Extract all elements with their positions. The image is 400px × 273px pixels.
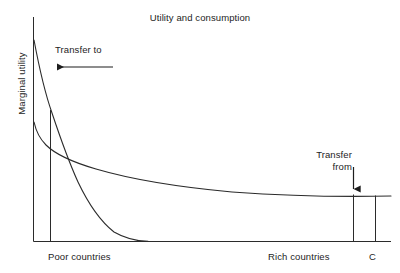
- flat-marginal-utility-curve: [34, 122, 391, 196]
- data-curves: [34, 40, 391, 241]
- utility-and-consumption-chart: Utility and consumption Marginal utility…: [0, 0, 400, 273]
- plot-area: [0, 0, 400, 273]
- steep-marginal-utility-curve: [34, 40, 148, 241]
- axes: [34, 17, 392, 242]
- reference-lines: [51, 110, 376, 242]
